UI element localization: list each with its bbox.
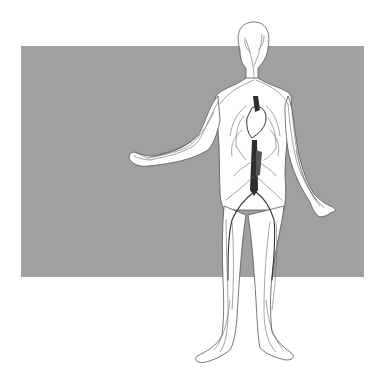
human-figure (0, 0, 385, 382)
body-silhouette (129, 22, 335, 363)
leg-right (248, 206, 293, 360)
arm-right (285, 96, 335, 217)
circulatory-illustration (0, 0, 385, 382)
arm-left (129, 96, 220, 166)
